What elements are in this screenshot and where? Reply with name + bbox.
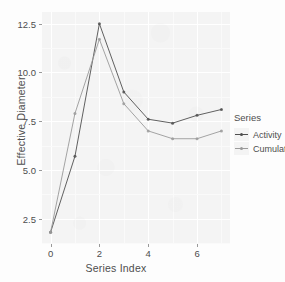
data-point [147,129,150,132]
data-point [171,137,174,140]
chart-container: Effective Diameter Series Index 2.55.07.… [0,0,285,282]
data-point [98,22,101,25]
data-point [98,38,101,41]
x-tick-mark [51,244,52,247]
x-tick-label: 6 [182,248,212,259]
data-point [171,122,174,125]
data-point [122,90,125,93]
data-point [147,118,150,121]
series-line-cumulative [51,39,222,232]
x-tick-mark [99,244,100,247]
legend-key-icon [234,128,249,141]
y-tick-mark [39,121,42,122]
data-point [122,102,125,105]
y-tick-label: 12.5 [0,18,36,29]
data-point [220,108,223,111]
series-layer [42,12,230,244]
y-tick-mark [39,219,42,220]
y-tick-label: 10.0 [0,67,36,78]
data-point [49,231,52,234]
series-line-activity [51,24,222,233]
legend: Series ActivityCumulative [234,112,285,156]
legend-label: Cumulative [253,144,285,154]
legend-item-cumulative[interactable]: Cumulative [234,142,285,155]
x-tick-mark [148,244,149,247]
data-point [220,129,223,132]
data-point [196,114,199,117]
data-point [196,137,199,140]
legend-key-icon [234,142,249,155]
y-tick-mark [39,72,42,73]
legend-title: Series [234,112,285,123]
y-tick-label: 5.0 [0,164,36,175]
legend-label: Activity [253,130,282,140]
data-point [73,112,76,115]
legend-items: ActivityCumulative [234,128,285,155]
x-tick-mark [197,244,198,247]
y-tick-mark [39,24,42,25]
legend-item-activity[interactable]: Activity [234,128,285,141]
x-tick-label: 2 [84,248,114,259]
data-point [73,155,76,158]
y-tick-label: 7.5 [0,116,36,127]
y-tick-mark [39,170,42,171]
x-axis-title: Series Index [0,262,232,274]
plot-panel [42,12,230,244]
y-tick-label: 2.5 [0,213,36,224]
x-tick-label: 4 [133,248,163,259]
x-tick-label: 0 [36,248,66,259]
